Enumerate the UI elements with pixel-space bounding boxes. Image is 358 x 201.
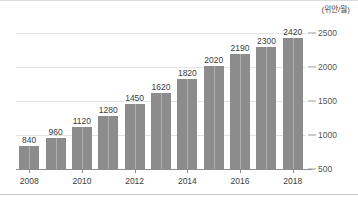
bar: [19, 146, 39, 169]
bar-value-label: 1280: [99, 105, 118, 115]
bar-center-line: [108, 116, 109, 169]
bar-value-label: 1820: [178, 68, 197, 78]
bar-center-line: [214, 66, 215, 169]
x-axis-line: [16, 169, 312, 170]
bar: [125, 104, 145, 169]
y-axis-tick-label: 500: [318, 164, 332, 174]
x-axis-tick-label: 2016: [231, 176, 250, 186]
bar-center-line: [240, 54, 241, 169]
bar-value-label: 960: [48, 127, 62, 137]
y-axis-tick-mark: [308, 33, 316, 34]
bar-center-line: [29, 146, 30, 169]
chart-figure: (위안/월) 500100015002000250084020089601120…: [0, 0, 358, 201]
bar: [72, 127, 92, 169]
y-axis-tick-mark: [308, 169, 316, 170]
x-axis-tick-mark: [29, 169, 30, 173]
y-axis-tick-label: 2500: [318, 28, 337, 38]
bar-center-line: [56, 138, 57, 169]
y-axis-tick-mark: [308, 101, 316, 102]
bar: [177, 79, 197, 169]
bar-center-line: [187, 79, 188, 169]
bar: [204, 66, 224, 169]
x-axis-tick-label: 2014: [178, 176, 197, 186]
bar-center-line: [266, 47, 267, 169]
bar: [46, 138, 66, 169]
bar-value-label: 1620: [152, 82, 171, 92]
x-axis-tick-mark: [82, 169, 83, 173]
y-axis-tick-mark: [308, 135, 316, 136]
gridline: [16, 33, 306, 34]
y-axis-tick-label: 1000: [318, 130, 337, 140]
bar-center-line: [135, 104, 136, 169]
bar: [230, 54, 250, 169]
x-axis-tick-label: 2012: [125, 176, 144, 186]
bar-center-line: [293, 38, 294, 169]
bar-value-label: 1450: [125, 93, 144, 103]
x-axis-tick-label: 2018: [283, 176, 302, 186]
y-axis-unit-label: (위안/월): [321, 3, 350, 14]
bar: [256, 47, 276, 169]
bar-value-label: 2020: [204, 55, 223, 65]
y-axis-tick-mark: [308, 67, 316, 68]
y-axis-tick-label: 1500: [318, 96, 337, 106]
x-axis-tick-mark: [135, 169, 136, 173]
bar-value-label: 1120: [73, 116, 91, 126]
x-axis-tick-label: 2010: [72, 176, 91, 186]
x-axis-tick-mark: [240, 169, 241, 173]
bar: [283, 38, 303, 169]
x-axis-tick-label: 2008: [20, 176, 39, 186]
x-axis-tick-mark: [187, 169, 188, 173]
bar-value-label: 840: [22, 135, 36, 145]
bar-center-line: [82, 127, 83, 169]
bar-value-label: 2190: [231, 43, 250, 53]
bar-value-label: 2420: [283, 27, 302, 37]
bar-center-line: [161, 93, 162, 169]
bar-value-label: 2300: [257, 36, 276, 46]
x-axis-tick-mark: [293, 169, 294, 173]
figure-bottom-border: [0, 194, 358, 195]
bar: [98, 116, 118, 169]
y-axis-tick-label: 2000: [318, 62, 337, 72]
plot-area: [16, 33, 306, 169]
bar: [151, 93, 171, 169]
